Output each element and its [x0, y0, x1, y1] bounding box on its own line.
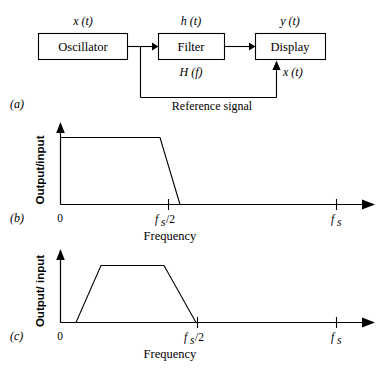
display-top-label: y (t) — [279, 14, 300, 28]
arrowhead-display-reference-input — [272, 61, 280, 71]
panel-c-x-axis-arrowhead — [362, 318, 375, 328]
panel-tag-b: (b) — [10, 211, 24, 225]
panel-b-xtick-label-fs: f s — [331, 213, 342, 228]
panel-b-x-axis-label: Frequency — [144, 229, 198, 243]
panel-c-x-axis-label: Frequency — [144, 347, 198, 361]
svg-text:/2: /2 — [195, 331, 204, 343]
panel-c-y-axis-label: Output/ input — [34, 255, 46, 327]
panel-b-y-axis-label: Output/input — [34, 135, 46, 204]
panel-tag-a: (a) — [10, 97, 24, 111]
panel-c-xtick-label-fs: f s — [331, 331, 342, 346]
arrowhead-filter-input — [152, 42, 159, 50]
panel-c-chart: 0 f s /2 f s Output/ input Frequency (c) — [10, 249, 375, 361]
filter-block-label: Filter — [177, 40, 205, 54]
svg-text:s: s — [337, 216, 342, 228]
oscillator-block-label: Oscillator — [58, 40, 108, 54]
panel-b-xtick-label-fs-half: f s /2 — [155, 213, 175, 228]
reference-signal-label: Reference signal — [172, 99, 253, 113]
figure-container: x (t) h (t) y (t) Oscillator Filter Disp… — [0, 0, 391, 372]
panel-b-chart: 0 f s /2 f s Output/input Frequency (b) — [10, 122, 375, 243]
panel-b-response-curve — [61, 138, 181, 205]
panel-c-y-axis-arrowhead — [56, 249, 65, 260]
feedback-signal-label: x (t) — [282, 65, 303, 79]
svg-text:f: f — [155, 213, 160, 226]
filter-top-label: h (t) — [181, 14, 201, 28]
panel-b-xtick-label-0: 0 — [57, 212, 63, 224]
panel-c-xtick-label-fs-half: f s /2 — [184, 331, 204, 346]
panel-c-response-curve — [61, 266, 197, 323]
panel-b-y-axis-arrowhead — [56, 122, 65, 133]
svg-text:/2: /2 — [166, 213, 175, 225]
svg-text:f: f — [331, 213, 336, 226]
figure-svg: x (t) h (t) y (t) Oscillator Filter Disp… — [0, 0, 391, 372]
panel-c-xtick-label-0: 0 — [57, 330, 63, 342]
filter-transfer-function-label: H (f) — [179, 65, 203, 79]
arrowhead-display-input — [249, 42, 256, 50]
display-block-label: Display — [271, 40, 311, 54]
panel-tag-c: (c) — [10, 329, 23, 343]
svg-text:s: s — [337, 334, 342, 346]
svg-text:f: f — [184, 331, 189, 344]
oscillator-top-label: x (t) — [72, 14, 93, 28]
panel-b-x-axis-arrowhead — [362, 200, 375, 210]
panel-a-block-diagram: x (t) h (t) y (t) Oscillator Filter Disp… — [10, 14, 326, 113]
svg-text:f: f — [331, 331, 336, 344]
